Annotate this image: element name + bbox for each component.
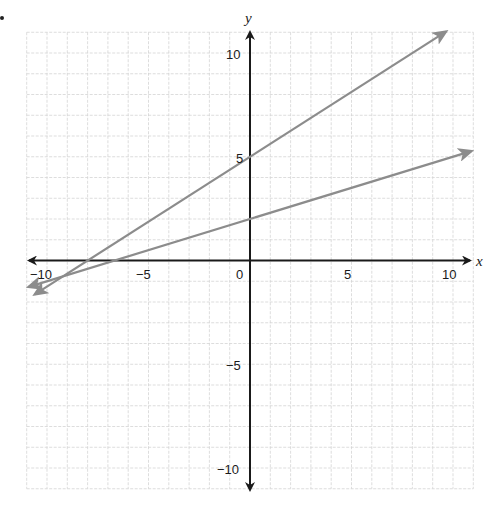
x-tick-10: 10	[442, 267, 456, 282]
x-tick-0: 0	[236, 267, 243, 282]
coordinate-plane: x y −10 −5 0 5 10 10 5 −5 −10	[0, 0, 495, 517]
y-tick-5: 5	[236, 151, 243, 166]
x-tick-5: 5	[344, 267, 351, 282]
y-tick-neg5: −5	[226, 358, 241, 373]
y-tick-10: 10	[226, 47, 240, 62]
x-axis-label: x	[475, 253, 483, 269]
y-tick-neg10: −10	[217, 462, 239, 477]
x-tick-neg5: −5	[136, 267, 151, 282]
y-axis-label: y	[243, 10, 252, 26]
x-tick-neg10: −10	[30, 267, 52, 282]
